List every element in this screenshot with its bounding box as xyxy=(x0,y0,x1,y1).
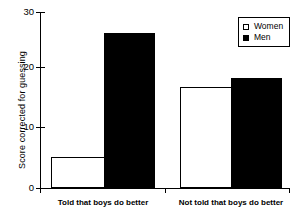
y-axis-line xyxy=(40,12,41,188)
y-axis-title: Score corrected for guessing xyxy=(17,30,27,190)
x-tick-middle xyxy=(165,188,166,193)
bar-group1-men xyxy=(104,33,155,188)
legend-item-women: Women xyxy=(243,21,283,32)
bar-group2-men xyxy=(231,78,282,188)
y-tick-label-20: 20 xyxy=(23,62,34,72)
y-tick-label-10: 10 xyxy=(23,122,34,132)
x-tick-right xyxy=(289,188,290,193)
x-tick-left xyxy=(40,188,41,193)
bar-chart: Score corrected for guessing 0 10 20 30 xyxy=(0,0,302,223)
bar-group2-women xyxy=(180,87,232,188)
legend-item-men: Men xyxy=(243,32,283,43)
y-tick-label-0: 0 xyxy=(29,183,34,193)
bar-group1-women xyxy=(51,157,105,188)
y-tick-label-30: 30 xyxy=(23,7,34,17)
x-category-label-2: Not told that boys do better xyxy=(179,198,283,207)
legend-label-women: Women xyxy=(254,22,283,31)
legend-swatch-women-icon xyxy=(243,24,249,30)
legend-swatch-men-icon xyxy=(243,35,249,41)
x-category-label-1: Told that boys do better xyxy=(58,198,149,207)
legend-label-men: Men xyxy=(254,33,271,42)
legend: Women Men xyxy=(238,17,290,47)
